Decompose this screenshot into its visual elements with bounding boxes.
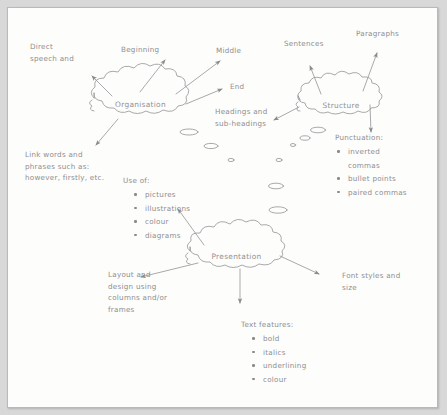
node-label-presentation: Presentation: [189, 252, 284, 261]
arrow-headings: [274, 107, 299, 120]
node-label-organisation: Organisation: [93, 100, 188, 109]
bullet-icon: [337, 191, 340, 194]
list-item: pictures: [145, 188, 190, 202]
list-item-label: inverted: [348, 147, 380, 156]
bullet-icon: [252, 337, 255, 340]
arrow-end: [186, 89, 222, 104]
list-item: inverted: [348, 145, 407, 159]
thought-trail-left: [180, 129, 234, 162]
list-use-of: Use of: pictures illustrations colour di…: [123, 176, 190, 242]
label-sentences: Sentences: [284, 38, 324, 50]
list-item-label: pictures: [145, 190, 176, 199]
list-item-label: bold: [263, 334, 280, 343]
label-middle: Middle: [216, 45, 241, 57]
label-beginning: Beginning: [121, 44, 159, 56]
label-direct-speech: Direct speech and: [30, 41, 74, 64]
list-text-features-head: Text features:: [241, 320, 306, 329]
list-item-label: colour: [263, 375, 287, 384]
list-item: bullet points: [348, 172, 407, 186]
list-item-label: colour: [145, 217, 169, 226]
list-item: colour: [145, 215, 190, 229]
list-punctuation-head: Punctuation:: [335, 133, 407, 142]
diagram-drawing-layer: [8, 8, 437, 407]
list-use-of-items: pictures illustrations colour diagrams: [123, 188, 190, 242]
list-item-label: underlining: [263, 361, 306, 370]
bullet-icon: [134, 207, 137, 210]
list-item-label: paired commas: [348, 188, 407, 197]
list-item: colour: [263, 373, 306, 387]
label-link-words: Link words and phrases such as: however,…: [25, 149, 104, 184]
list-use-of-head: Use of:: [123, 176, 190, 185]
bullet-icon: [337, 177, 340, 180]
list-item: paired commas: [348, 186, 407, 200]
list-item: italics: [263, 346, 306, 360]
label-font-styles: Font styles and size: [342, 270, 400, 293]
list-item-label: bullet points: [348, 174, 396, 183]
bullet-icon: [252, 378, 255, 381]
list-item-label: italics: [263, 348, 286, 357]
bullet-icon: [134, 220, 137, 223]
bullet-icon: [134, 193, 137, 196]
list-punctuation-items: inverted commas bullet points paired com…: [335, 145, 407, 199]
list-item-label: illustrations: [145, 204, 190, 213]
label-end: End: [230, 81, 244, 93]
bullet-icon: [252, 351, 255, 354]
list-text-features: Text features: bold italics underlining …: [241, 320, 306, 386]
diagram-page: Organisation Structure Presentation Dire…: [7, 7, 438, 408]
label-paragraphs: Paragraphs: [356, 28, 399, 40]
arrow-font-styles: [280, 256, 319, 274]
label-layout: Layout and design using columns and/or f…: [108, 269, 167, 315]
list-item-label: commas: [348, 161, 380, 170]
label-headings: Headings and sub-headings: [215, 106, 267, 129]
list-item: diagrams: [145, 229, 190, 243]
list-item: illustrations: [145, 202, 190, 216]
node-label-structure: Structure: [300, 101, 382, 110]
list-item: bold: [263, 332, 306, 346]
list-text-features-items: bold italics underlining colour: [241, 332, 306, 386]
bullet-icon: [252, 364, 255, 367]
list-punctuation: Punctuation: inverted commas bullet poin…: [335, 133, 407, 199]
arrow-link-words: [96, 119, 118, 145]
list-item: underlining: [263, 359, 306, 373]
arrow-paragraphs: [363, 53, 377, 91]
thought-trail-right: [269, 127, 326, 213]
bullet-icon: [337, 150, 340, 153]
arrow-sentences: [310, 66, 321, 94]
list-item: commas: [348, 159, 407, 173]
list-item-label: diagrams: [145, 231, 181, 240]
bullet-icon: [134, 234, 137, 237]
